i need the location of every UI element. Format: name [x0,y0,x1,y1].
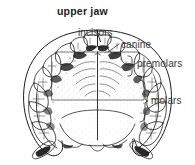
label-incisors: incisors [78,27,113,38]
label-molars: molars [151,95,182,106]
label-premolars: premolars [137,58,182,69]
upper-jaw-figure: upper jaw incisors canine premolars mola… [0,0,195,165]
label-canine: canine [121,39,151,50]
page-title: upper jaw [57,6,108,17]
upper-jaw-illustration [0,0,195,165]
